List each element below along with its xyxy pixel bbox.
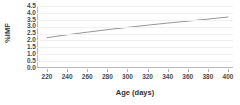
chart-figure: %IMF 4.54.03.53.02.52.01.51.00.50.0 2202… [0, 0, 240, 105]
gridline [37, 6, 233, 7]
x-tick-mark [188, 69, 189, 72]
x-tick-mark [168, 69, 169, 72]
gridline [37, 13, 233, 14]
x-axis-title: Age (days) [37, 88, 233, 97]
y-axis-title: %IMF [1, 12, 15, 54]
x-axis-tick-labels: 220240260280300320340360380400 [37, 69, 233, 81]
x-tick-mark [148, 69, 149, 72]
gridline [37, 34, 233, 35]
x-tick-mark [228, 69, 229, 72]
x-tick-mark [67, 69, 68, 72]
gridline [37, 54, 233, 55]
x-tick-mark [47, 69, 48, 72]
x-tick-mark [127, 69, 128, 72]
x-tick-mark [208, 69, 209, 72]
x-tick-mark [87, 69, 88, 72]
plot-area [37, 6, 233, 68]
gridline [37, 27, 233, 28]
y-axis-tick-labels: 4.54.03.53.02.52.01.51.00.50.0 [14, 0, 36, 72]
gridline [37, 40, 233, 41]
y-tick-label: 0.0 [14, 65, 36, 72]
gridline [37, 47, 233, 48]
gridline [37, 61, 233, 62]
x-tick-label: 400 [216, 73, 240, 80]
data-line-series [37, 6, 233, 68]
gridline [37, 20, 233, 21]
x-tick-mark [107, 69, 108, 72]
